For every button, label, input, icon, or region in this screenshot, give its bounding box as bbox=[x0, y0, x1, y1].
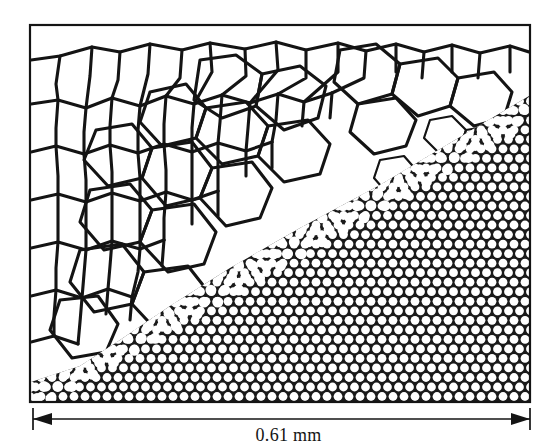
scale-bar-label: 0.61 mm bbox=[249, 425, 329, 442]
foam-micrograph-svg bbox=[0, 0, 558, 442]
foam-micrograph-figure: 0.61 mm bbox=[0, 0, 558, 442]
scale-bar-label-wrap: 0.61 mm bbox=[0, 404, 558, 442]
